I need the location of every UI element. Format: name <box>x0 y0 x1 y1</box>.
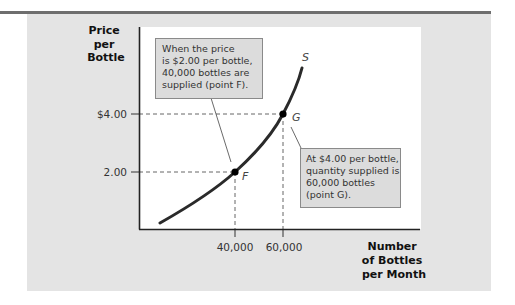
point-g-label: G <box>292 111 301 124</box>
y-tick-label-4: $4.00 <box>97 108 127 120</box>
point-f-marker <box>231 168 238 175</box>
point-g-marker <box>279 110 286 117</box>
supply-chart: Price per Bottle Number of Bottles per M… <box>0 0 515 305</box>
point-f-label: F <box>242 170 249 183</box>
x-tick-label-40000: 40,000 <box>217 241 254 253</box>
curve-label-s: S <box>302 51 309 64</box>
y-tick-label-2: 2.00 <box>104 166 127 178</box>
y-axis-title: Price per Bottle <box>87 24 125 64</box>
callout-f: When the price is $2.00 per bottle, 40,0… <box>156 39 263 99</box>
x-tick-label-60000: 60,000 <box>266 241 303 253</box>
x-axis-title: Number of Bottles per Month <box>362 240 426 281</box>
callout-g: At $4.00 per bottle, quantity supplied i… <box>301 149 403 208</box>
y-ticks <box>131 114 139 172</box>
